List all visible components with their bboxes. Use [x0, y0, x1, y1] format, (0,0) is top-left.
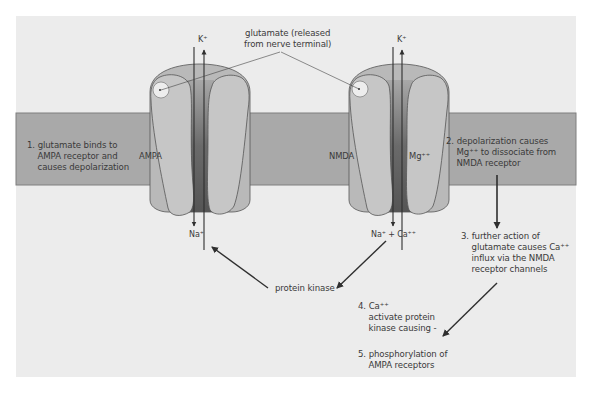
ampa-k-ion-label: K⁺	[198, 34, 207, 45]
background-panel	[16, 16, 576, 377]
nmda-na-ca-ion-label: Na⁺ + Ca⁺⁺	[371, 229, 416, 240]
step5-label: 5. phosphorylation of AMPA receptors	[358, 349, 447, 371]
step1-label: 1. glutamate binds to AMPA receptor and …	[27, 140, 129, 173]
diagram-canvas	[0, 0, 596, 393]
nmda-label: NMDA	[329, 151, 354, 162]
step3-label: 3. further action of glutamate causes Ca…	[461, 231, 569, 275]
nmda-k-ion-label: K⁺	[397, 34, 406, 45]
step2-label: 2. depolarization causes Mg⁺⁺ to dissoci…	[446, 136, 556, 169]
ampa-label: AMPA	[139, 151, 162, 162]
mg-blocker-label: Mg⁺⁺	[409, 151, 430, 162]
ampa-na-ion-label: Na⁺	[189, 229, 204, 240]
step4-label: 4. Ca⁺⁺ activate protein kinase causing …	[358, 301, 437, 334]
ampa-nmda-diagram: glutamate (released from nerve terminal)…	[0, 0, 596, 393]
glutamate-label: glutamate (released from nerve terminal)	[244, 28, 331, 50]
protein-kinase-label: protein kinase	[275, 283, 335, 294]
